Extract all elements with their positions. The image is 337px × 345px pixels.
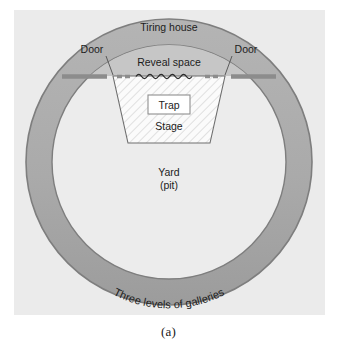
label-trap: Trap [158, 99, 179, 111]
label-tiring-house: Tiring house [140, 21, 198, 33]
figure-root: Tiring house Door Door Reveal space Trap… [0, 0, 337, 345]
label-yard: Yard [158, 166, 180, 178]
label-reveal-space: Reveal space [137, 56, 201, 68]
theatre-plan-diagram: Tiring house Door Door Reveal space Trap… [0, 0, 337, 318]
label-stage: Stage [155, 120, 183, 132]
label-yard-pit: (pit) [160, 179, 178, 191]
label-door-right: Door [235, 43, 258, 55]
theatre-plan-svg: Tiring house Door Door Reveal space Trap… [0, 0, 337, 318]
label-door-left: Door [81, 43, 104, 55]
figure-caption: (a) [161, 324, 176, 340]
figure-caption-row: (a) [0, 318, 337, 345]
